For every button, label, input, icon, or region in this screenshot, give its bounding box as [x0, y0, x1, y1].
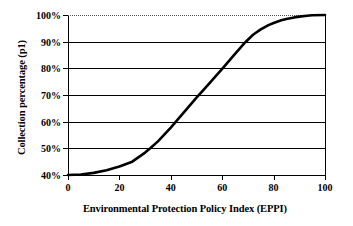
chart-figure: Collection percentage (p1) 40%50%60%70%8…	[0, 0, 353, 226]
x-axis-tick-label: 80	[269, 182, 279, 193]
x-axis-tick-label: 60	[217, 182, 227, 193]
y-axis-tick-label: 90%	[41, 36, 61, 47]
plot-area: 40%50%60%70%80%90%100% 020406080100	[68, 15, 325, 175]
x-axis-tick	[222, 175, 223, 180]
x-axis-tick	[274, 175, 275, 180]
x-axis-line	[68, 175, 325, 176]
x-axis-title: Environmental Protection Policy Index (E…	[40, 203, 330, 214]
x-axis-tick	[171, 175, 172, 180]
x-axis-tick-label: 20	[114, 182, 124, 193]
y-axis-tick-label: 70%	[41, 90, 61, 101]
y-axis-tick-label: 60%	[41, 116, 61, 127]
y-axis-tick-label: 50%	[41, 143, 61, 154]
x-axis-tick-label: 100	[318, 182, 333, 193]
plot-right-border	[325, 15, 326, 175]
y-axis-tick-label: 100%	[36, 10, 61, 21]
y-axis-title: Collection percentage (p1)	[16, 13, 27, 183]
y-axis-tick-label: 80%	[41, 63, 61, 74]
x-axis-tick	[325, 175, 326, 180]
data-series-line	[68, 15, 325, 175]
y-axis-tick-label: 40%	[41, 170, 61, 181]
x-axis-tick-label: 0	[66, 182, 71, 193]
x-axis-tick-label: 40	[166, 182, 176, 193]
x-axis-tick	[119, 175, 120, 180]
